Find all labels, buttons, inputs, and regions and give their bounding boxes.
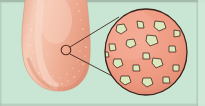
illustration-canvas: [0, 0, 205, 106]
papilla: [169, 46, 176, 52]
papilla: [173, 65, 179, 71]
papilla: [163, 77, 170, 83]
papilla: [143, 53, 150, 59]
papilla: [137, 21, 144, 28]
papilla: [133, 65, 140, 71]
papilla: [174, 30, 180, 37]
illustration-figure: [0, 0, 205, 106]
papilla: [109, 44, 116, 51]
